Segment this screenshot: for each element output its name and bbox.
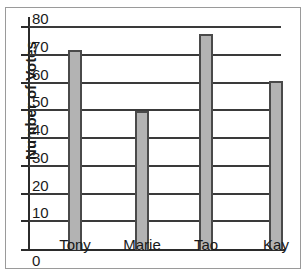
gridline: [28, 109, 281, 111]
y-axis-tick-label: 10: [32, 205, 49, 220]
y-axis-tick: [21, 193, 29, 195]
y-axis-tick: [21, 220, 29, 222]
x-axis-label-kay: Kay: [263, 237, 289, 252]
gridline: [28, 193, 281, 195]
y-axis-tick: [21, 54, 29, 56]
gridline: [28, 220, 281, 222]
bar: [68, 50, 82, 250]
y-axis-tick-label: 80: [32, 11, 49, 26]
y-axis-tick-label: 20: [32, 178, 49, 193]
x-axis-label-tao: Tao: [194, 237, 218, 252]
gridline: [28, 54, 281, 56]
y-axis-line: [28, 17, 30, 251]
gridline: [28, 137, 281, 139]
gridline: [28, 82, 281, 84]
y-axis-tick-label: 40: [32, 122, 49, 137]
y-axis-tick: [21, 26, 29, 28]
x-axis-label-marie: Marie: [123, 237, 161, 252]
y-axis-tick: [21, 165, 29, 167]
bar-chart-figure: Number of Votes 10203040506070800 TonyMa…: [0, 0, 307, 276]
bar: [135, 111, 149, 250]
y-axis-tick-label: 70: [32, 39, 49, 54]
y-axis-origin-tick: [21, 249, 29, 251]
y-axis-tick: [21, 137, 29, 139]
y-axis-tick: [21, 82, 29, 84]
bar: [199, 34, 213, 250]
x-axis-label-tony: Tony: [59, 237, 91, 252]
y-axis-tick-label: 60: [32, 67, 49, 82]
y-axis-tick-label: 50: [32, 94, 49, 109]
bar: [269, 81, 283, 250]
y-axis-tick-label: 30: [32, 150, 49, 165]
y-axis-origin-label: 0: [32, 253, 40, 268]
y-axis-tick: [21, 109, 29, 111]
gridline: [28, 165, 281, 167]
plot-area: 10203040506070800: [28, 17, 293, 251]
gridline: [28, 26, 281, 28]
